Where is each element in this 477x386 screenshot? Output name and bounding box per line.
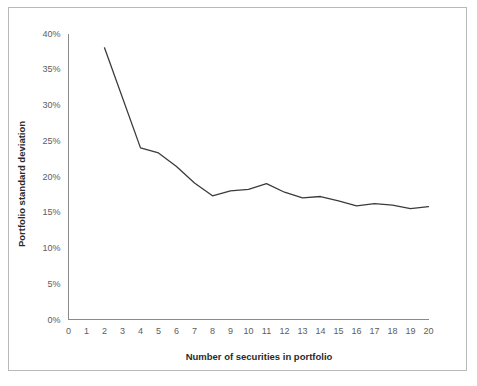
y-axis-tick-labels: 0%5%10%15%20%25%30%35%40% bbox=[42, 29, 60, 325]
figure-frame: 0%5%10%15%20%25%30%35%40% 01234567891011… bbox=[8, 7, 467, 371]
x-tick-label: 1 bbox=[84, 326, 89, 336]
x-tick-label: 5 bbox=[156, 326, 161, 336]
x-tick-label: 4 bbox=[138, 326, 143, 336]
x-tick-label: 18 bbox=[387, 326, 397, 336]
x-tick-label: 16 bbox=[351, 326, 361, 336]
x-tick-label: 2 bbox=[102, 326, 107, 336]
x-tick-label: 9 bbox=[228, 326, 233, 336]
x-tick-label: 11 bbox=[262, 326, 271, 336]
y-tick-label: 25% bbox=[42, 136, 60, 146]
x-tick-label: 8 bbox=[210, 326, 215, 336]
y-tick-label: 20% bbox=[42, 172, 60, 182]
line-chart: 0%5%10%15%20%25%30%35%40% 01234567891011… bbox=[9, 8, 468, 372]
x-tick-label: 3 bbox=[120, 326, 125, 336]
x-tick-label: 0 bbox=[66, 326, 71, 336]
x-tick-label: 7 bbox=[192, 326, 197, 336]
y-tick-label: 0% bbox=[47, 315, 60, 325]
y-tick-label: 35% bbox=[42, 64, 60, 74]
x-tick-label: 13 bbox=[297, 326, 307, 336]
data-series-line bbox=[105, 48, 429, 209]
y-tick-label: 15% bbox=[42, 207, 60, 217]
y-tick-label: 40% bbox=[42, 29, 60, 39]
x-tick-label: 17 bbox=[369, 326, 379, 336]
x-axis-tick-labels: 01234567891011121314151617181920 bbox=[66, 326, 434, 336]
x-tick-label: 10 bbox=[243, 326, 253, 336]
x-tick-label: 6 bbox=[174, 326, 179, 336]
x-tick-label: 19 bbox=[405, 326, 415, 336]
x-tick-label: 15 bbox=[333, 326, 343, 336]
y-axis-title: Portfolio standard deviation bbox=[16, 121, 27, 247]
x-axis-title: Number of securities in portfolio bbox=[186, 351, 333, 362]
x-tick-label: 20 bbox=[423, 326, 433, 336]
y-tick-label: 10% bbox=[42, 243, 60, 253]
x-tick-label: 12 bbox=[279, 326, 289, 336]
y-tick-label: 30% bbox=[42, 100, 60, 110]
x-tick-label: 14 bbox=[315, 326, 325, 336]
y-tick-label: 5% bbox=[47, 279, 60, 289]
